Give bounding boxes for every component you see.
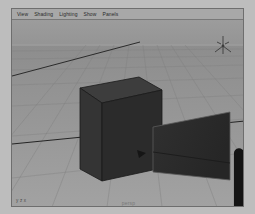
viewport-menu-bar: View Shading Lighting Show Panels <box>12 9 243 20</box>
menu-item-show[interactable]: Show <box>81 11 100 17</box>
viewport-panel: View Shading Lighting Show Panels <box>11 8 244 207</box>
camera-name-label: persp <box>122 201 136 206</box>
menu-item-shading[interactable]: Shading <box>31 11 56 17</box>
cube-face-left <box>80 88 102 181</box>
polygon-cube[interactable] <box>80 77 162 181</box>
menu-item-lighting[interactable]: Lighting <box>56 11 80 17</box>
application-window: View Shading Lighting Show Panels <box>0 0 255 214</box>
viewport-canvas <box>12 20 244 207</box>
menu-item-view[interactable]: View <box>14 11 31 17</box>
menu-item-panels[interactable]: Panels <box>99 11 121 17</box>
perspective-viewport[interactable]: y z x persp <box>12 20 244 207</box>
viewport-sky <box>12 20 244 46</box>
axis-orientation-label: y z x <box>16 198 26 203</box>
